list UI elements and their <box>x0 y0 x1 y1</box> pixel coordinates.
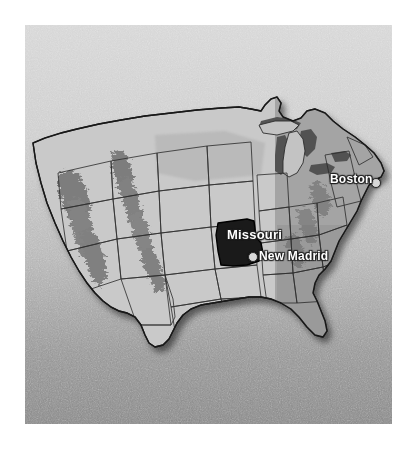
map-figure: Missouri New Madrid Boston <box>0 0 416 455</box>
map-panel <box>25 25 392 424</box>
city-dot-boston <box>371 178 381 188</box>
map-drawing <box>25 25 392 424</box>
plains-relief <box>155 131 265 181</box>
city-dot-new-madrid <box>248 252 258 262</box>
